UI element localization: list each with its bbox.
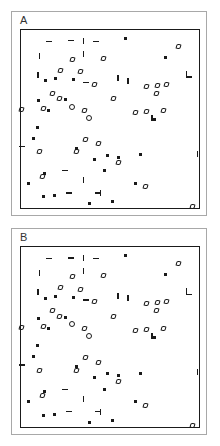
data-point-filled-square (72, 296, 75, 299)
data-point-filled-square (64, 98, 67, 101)
data-point-open-diamond (153, 90, 159, 96)
data-point-open-diamond (111, 96, 117, 102)
data-point-filled-square (54, 295, 57, 298)
data-point-filled-square (54, 77, 57, 80)
data-point-filled-square (111, 419, 114, 422)
data-point-open-diamond (164, 299, 170, 305)
data-point-horizontal-dash (66, 192, 72, 193)
data-point-filled-square (32, 355, 35, 358)
data-point-filled-square (117, 156, 120, 159)
data-point-horizontal-dash (68, 40, 74, 41)
data-point-filled-square (37, 317, 40, 320)
data-point-open-diamond (83, 355, 89, 361)
data-point-filled-square (36, 344, 39, 347)
data-point-horizontal-dash (68, 257, 74, 258)
data-point-vertical-bar (37, 72, 38, 78)
data-point-vertical-bar (151, 115, 152, 121)
data-point-open-diamond (95, 141, 101, 147)
data-point-open-diamond (101, 273, 107, 279)
data-point-open-diamond (37, 367, 43, 373)
data-point-filled-square (37, 99, 40, 102)
data-point-horizontal-dash (186, 76, 192, 77)
data-point-open-diamond (160, 326, 166, 332)
data-point-circle-open (69, 321, 75, 327)
data-point-filled-square (88, 202, 91, 205)
data-point-vertical-bar (127, 295, 128, 301)
data-point-open-diamond (176, 43, 182, 49)
data-point-filled-square (134, 400, 137, 403)
data-point-vertical-bar (151, 333, 152, 339)
data-point-open-diamond (153, 308, 159, 314)
data-point-open-diamond (133, 110, 139, 116)
data-point-filled-square (111, 200, 114, 203)
data-point-filled-square (27, 400, 30, 403)
data-point-open-diamond (56, 313, 62, 319)
data-point-vertical-bar (83, 177, 84, 183)
data-point-filled-square (103, 388, 106, 391)
data-point-horizontal-dash (95, 192, 101, 193)
panel-b: B (11, 228, 207, 435)
data-point-filled-square (106, 372, 109, 375)
data-point-vertical-bar (83, 51, 84, 57)
data-point-open-diamond (115, 160, 121, 166)
data-point-open-diamond (101, 56, 107, 62)
data-point-open-diamond (19, 324, 25, 330)
data-point-vertical-bar (83, 268, 84, 274)
figure-container: A B (0, 0, 220, 446)
data-point-horizontal-dash (46, 258, 52, 259)
data-point-filled-square (53, 194, 56, 197)
data-point-filled-square (164, 273, 167, 276)
data-point-filled-square (153, 336, 156, 339)
data-point-open-diamond (57, 67, 63, 73)
data-point-horizontal-dash (83, 82, 89, 83)
data-point-filled-square (27, 182, 30, 185)
data-point-open-diamond (144, 109, 150, 115)
data-point-open-diamond (190, 422, 196, 428)
data-point-filled-square (134, 182, 137, 185)
data-point-horizontal-dash (93, 258, 99, 259)
data-point-open-diamond (154, 300, 160, 306)
data-point-horizontal-dash (93, 41, 99, 42)
data-point-filled-square (36, 126, 39, 129)
data-point-vertical-bar (197, 369, 198, 375)
data-point-open-diamond (144, 327, 150, 333)
data-point-open-diamond (115, 378, 121, 384)
data-point-filled-square (47, 327, 50, 330)
data-point-open-diamond (70, 274, 76, 280)
panel-b-label: B (20, 231, 28, 243)
data-point-open-diamond (81, 326, 87, 332)
data-point-open-diamond (144, 301, 150, 307)
data-point-horizontal-dash (46, 41, 52, 42)
data-point-open-diamond (49, 308, 55, 314)
data-point-filled-square (93, 158, 96, 161)
data-point-filled-square (103, 169, 106, 172)
data-point-filled-square (72, 78, 75, 81)
data-point-horizontal-dash (66, 411, 72, 412)
data-point-circle-open (86, 115, 92, 121)
data-point-open-diamond (73, 149, 79, 155)
data-point-open-diamond (57, 285, 63, 291)
data-point-filled-square (139, 153, 142, 156)
data-point-open-diamond (144, 83, 150, 89)
data-point-filled-square (106, 154, 109, 157)
data-point-open-diamond (95, 359, 101, 365)
data-point-filled-square (42, 414, 45, 417)
data-point-horizontal-dash (186, 294, 192, 295)
data-point-horizontal-dash (62, 389, 68, 390)
data-point-open-diamond (49, 90, 55, 96)
data-point-open-diamond (56, 96, 62, 102)
data-point-open-diamond (37, 149, 43, 155)
data-point-open-diamond (111, 313, 117, 319)
data-point-filled-square (124, 254, 127, 257)
data-point-open-diamond (81, 108, 87, 114)
panel-a-label: A (20, 14, 28, 26)
data-point-open-diamond (176, 260, 182, 266)
data-point-vertical-bar (39, 270, 40, 276)
data-point-open-diamond (40, 105, 46, 111)
data-point-open-diamond (70, 56, 76, 62)
data-point-filled-square (53, 413, 56, 416)
data-point-filled-square (44, 297, 47, 300)
data-point-open-diamond (133, 328, 139, 334)
data-point-open-diamond (39, 174, 45, 180)
data-point-open-diamond (154, 82, 160, 88)
